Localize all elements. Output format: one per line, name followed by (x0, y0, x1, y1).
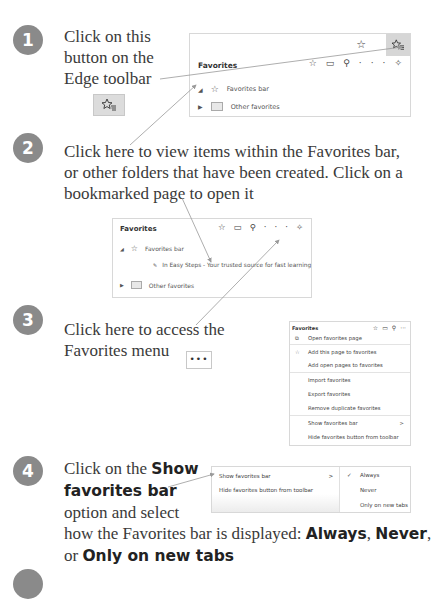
menu-open-favorites-page[interactable]: ⧉ Open favorites page (290, 335, 410, 341)
tree-item-other-favorites[interactable]: ▶ Other favorites (120, 281, 194, 289)
tree-item-label: Other favorites (231, 103, 280, 111)
site-favicon-icon: ✎ (153, 262, 157, 268)
panel-2-header-icons: ☆▭⚲···✧ (218, 222, 303, 232)
step-2-line: bookmarked page to open it (64, 183, 403, 204)
expanded-triangle-icon[interactable]: ◢ (198, 86, 203, 93)
panel-2-header: Favorites (120, 225, 157, 233)
step-2-text: Click here to view items within the Favo… (64, 141, 403, 204)
menu-show-favorites-bar[interactable]: Show favorites bar > (290, 420, 410, 426)
bookmark-item[interactable]: ✎ In Easy Steps - Your trusted source fo… (153, 262, 311, 268)
step-4-line: or Only on new tabs (64, 545, 431, 567)
step-number-3: 3 (13, 305, 43, 335)
menu-label: Show favorites bar (219, 473, 271, 479)
chevron-right-icon: > (400, 420, 404, 426)
divider (290, 415, 410, 416)
more-icon: ••• (190, 354, 209, 364)
menu-label: Export favorites (308, 391, 350, 397)
star-icon: ☆ (131, 244, 138, 253)
checkmark-icon: ✓ (347, 472, 352, 478)
add-folder-icon[interactable]: ▭ (234, 222, 250, 232)
expanded-triangle-icon[interactable]: ◢ (120, 246, 124, 252)
panel-3-header: Favorites (292, 325, 318, 331)
more-icon[interactable]: ··· (400, 324, 406, 331)
panel-1-header-icons: ☆▭⚲···✧ (309, 58, 402, 68)
divider (290, 372, 410, 373)
menu-label: Show favorites bar (308, 420, 358, 426)
add-favorite-icon[interactable]: ☆ (218, 222, 234, 232)
tree-item-other-favorites[interactable]: ▶ Other favorites (198, 102, 280, 111)
ellipsis-button-example: ••• (186, 351, 212, 369)
favorites-menu-panel: Favorites ☆▭⚲··· ⧉ Open favorites page ☆… (289, 321, 411, 446)
menu-label: Open favorites page (308, 335, 362, 341)
menu-hide-favorites-button[interactable]: Hide favorites button from toolbar (290, 434, 410, 440)
tree-item-favorites-bar[interactable]: ◢ ☆ Favorites bar (198, 84, 269, 94)
pin-icon[interactable]: ✧ (296, 222, 303, 232)
menu-label: Add this page to favorites (308, 349, 376, 355)
menu-hide-favorites-button[interactable]: Hide favorites button from toolbar (212, 487, 339, 493)
submenu-never[interactable]: Never (340, 487, 410, 493)
menu-label: Never (360, 487, 376, 493)
favorites-hub-button[interactable] (386, 34, 410, 56)
favorites-toolbar-button-example (93, 94, 125, 116)
step-4-line: how the Favorites bar is displayed: Alwa… (64, 523, 431, 545)
star-icon: ☆ (211, 84, 219, 94)
step-2-line: Click here to view items within the Favo… (64, 141, 403, 162)
search-icon[interactable]: ⚲ (392, 324, 400, 331)
pin-icon[interactable]: ✧ (394, 58, 402, 68)
toolbar-strip: ☆ (190, 34, 410, 56)
divider (290, 344, 410, 345)
step-3-line: Click here to access the (64, 319, 225, 340)
add-favorite-icon[interactable]: ☆ (356, 38, 366, 51)
add-favorite-icon[interactable]: ☆ (373, 324, 382, 331)
show-favorites-bar-menu: Show favorites bar > Hide favorites butt… (211, 466, 411, 513)
add-folder-icon[interactable]: ▭ (382, 324, 392, 331)
menu-add-open-pages[interactable]: Add open pages to favorites (290, 362, 410, 368)
menu-label: Hide favorites button from toolbar (308, 434, 399, 440)
submenu-always[interactable]: ✓ Always (340, 472, 410, 478)
add-favorite-icon[interactable]: ☆ (309, 58, 326, 68)
tree-item-favorites-bar[interactable]: ◢ ☆ Favorites bar (120, 244, 184, 253)
add-favorite-icon: ☆ (295, 349, 300, 355)
menu-show-favorites-bar[interactable]: Show favorites bar > (212, 473, 339, 479)
add-folder-icon[interactable]: ▭ (326, 58, 344, 68)
chevron-right-icon: > (328, 473, 333, 479)
step-number-2: 2 (13, 133, 43, 163)
step-2-line: or other folders that have been created.… (64, 162, 403, 183)
step-number-4: 4 (13, 456, 43, 486)
star-with-lines-icon (101, 98, 117, 112)
panel-1-header: Favorites (198, 61, 237, 70)
search-icon[interactable]: ⚲ (343, 58, 359, 68)
step-1-text: Click on this button on the Edge toolbar (64, 26, 154, 89)
favorites-panel-1: ☆ Favorites ☆▭⚲···✧ ◢ ☆ Favorites bar ▶ … (189, 33, 411, 117)
more-icon[interactable]: ··· (359, 58, 395, 68)
bookmark-label: In Easy Steps - Your trusted source for … (162, 262, 311, 268)
submenu-only-new-tabs[interactable]: Only on new tabs (340, 502, 410, 508)
menu-label: Add open pages to favorites (308, 362, 383, 368)
panel-3-header-icons: ☆▭⚲··· (373, 324, 406, 331)
star-with-lines-icon (391, 39, 405, 51)
submenu: ✓ Always Never Only on new tabs (340, 467, 410, 512)
menu-label: Always (360, 472, 379, 478)
favorites-panel-2: Favorites ☆▭⚲···✧ ◢ ☆ Favorites bar ✎ In… (112, 218, 312, 298)
step-1-line: Edge toolbar (64, 68, 154, 89)
step-number-5 (13, 569, 43, 599)
more-icon[interactable]: ··· (264, 222, 296, 232)
step-1-line: Click on this (64, 26, 154, 47)
menu-left-section: Show favorites bar > Hide favorites butt… (212, 467, 340, 512)
folder-icon (131, 281, 142, 289)
tree-item-label: Favorites bar (145, 245, 184, 252)
menu-label: Import favorites (308, 377, 351, 383)
tree-item-label: Other favorites (149, 282, 194, 289)
menu-label: Hide favorites button from toolbar (219, 487, 313, 493)
collapsed-triangle-icon[interactable]: ▶ (120, 282, 124, 288)
collapsed-triangle-icon[interactable]: ▶ (198, 103, 203, 110)
external-link-icon: ⧉ (295, 335, 299, 342)
menu-import-favorites[interactable]: Import favorites (290, 377, 410, 383)
search-icon[interactable]: ⚲ (250, 222, 264, 232)
menu-remove-duplicates[interactable]: Remove duplicate favorites (290, 405, 410, 411)
menu-export-favorites[interactable]: Export favorites (290, 391, 410, 397)
folder-icon (211, 102, 223, 111)
menu-add-this-page[interactable]: ☆ Add this page to favorites (290, 349, 410, 355)
step-1-line: button on the (64, 47, 154, 68)
step-number-1: 1 (13, 25, 43, 55)
